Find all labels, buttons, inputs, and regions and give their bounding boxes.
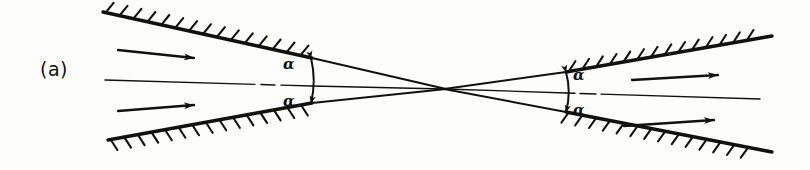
alpha-label-top-left: α xyxy=(283,55,295,73)
flow-arrow-outlet-lower xyxy=(624,120,714,126)
flow-arrow-inlet-lower xyxy=(118,105,194,111)
flow-arrow-inlet-upper xyxy=(118,50,194,58)
ray-upper-right xyxy=(444,72,566,89)
alpha-label-top-right: α xyxy=(573,66,585,84)
centerline-right xyxy=(566,93,760,99)
hatching-bottom-right xyxy=(561,113,748,158)
ray-upper-left xyxy=(312,58,446,89)
wall-top-left-group xyxy=(103,3,312,58)
angle-marker-right xyxy=(566,72,569,112)
diagram-canvas xyxy=(0,0,810,170)
hatching-top-right xyxy=(569,30,754,72)
figure-panel-a: (a) xyxy=(0,0,810,170)
flow-arrow-outlet-upper xyxy=(632,75,718,80)
ray-lower-left xyxy=(312,89,446,103)
hatching-bottom-left xyxy=(111,105,308,150)
alpha-label-bottom-left: α xyxy=(283,92,295,110)
alpha-label-bottom-right: α xyxy=(573,101,585,119)
through-line-left xyxy=(312,86,445,89)
hatching-top-left xyxy=(106,3,309,56)
boundary-rays xyxy=(312,58,566,112)
centerline-left xyxy=(105,80,312,86)
angle-marker-left xyxy=(311,58,314,103)
wall-top-right-group xyxy=(566,30,772,72)
wall-bottom-right-group xyxy=(561,112,772,158)
